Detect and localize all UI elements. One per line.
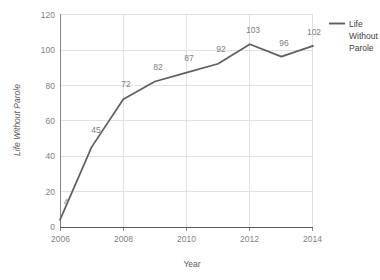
data-label-2012: 103	[246, 25, 260, 35]
x-tick-label-2014: 2014	[303, 234, 322, 244]
y-tick-label-40: 40	[46, 151, 56, 161]
legend-label-line-2: Without	[349, 31, 378, 41]
y-tick-label-20: 20	[46, 187, 56, 197]
line-chart: 120 100 80 60 40 20 0 2006 2008 2010 201…	[0, 0, 380, 280]
y-tick-label-0: 0	[50, 222, 55, 232]
data-label-2006: 4	[64, 197, 69, 207]
data-label-2013: 96	[279, 38, 289, 48]
legend-label-line-3: Parole	[349, 43, 374, 53]
y-tick-label-120: 120	[41, 10, 55, 20]
x-tick-label-2010: 2010	[177, 234, 196, 244]
y-axis-title: Life Without Parole	[12, 84, 22, 156]
x-tick-label-2008: 2008	[114, 234, 133, 244]
data-label-2010: 87	[184, 53, 194, 63]
y-tick-label-100: 100	[41, 45, 55, 55]
x-tick-label-2012: 2012	[240, 234, 259, 244]
legend-label-line-1: Life	[349, 19, 363, 29]
data-label-2007: 45	[91, 125, 101, 135]
chart-container: 120 100 80 60 40 20 0 2006 2008 2010 201…	[0, 0, 380, 280]
data-label-2014: 102	[307, 27, 321, 37]
y-tick-label-60: 60	[46, 116, 56, 126]
data-label-2008: 72	[121, 79, 131, 89]
x-tick-label-2006: 2006	[51, 234, 70, 244]
y-tick-label-80: 80	[46, 81, 56, 91]
data-label-2009: 82	[153, 62, 163, 72]
data-label-2011: 92	[216, 44, 226, 54]
x-axis-title: Year	[183, 259, 200, 269]
